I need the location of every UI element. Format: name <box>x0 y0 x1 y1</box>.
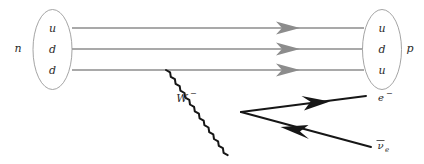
feynman-diagram-svg: u d d n u d u p W − e − ν e <box>0 0 424 164</box>
neutron-quark-2-label: d <box>49 43 56 56</box>
electron-charge-label: − <box>386 89 393 98</box>
w-boson-wavy-line <box>166 70 228 155</box>
proton-quark-1-label: u <box>378 22 385 35</box>
antineutrino-label: ν <box>377 140 383 151</box>
lepton-lines-group <box>241 96 371 147</box>
proton-quark-2-label: d <box>378 43 385 56</box>
proton-quark-3-label: u <box>378 64 385 77</box>
feynman-diagram-canvas: u d d n u d u p W − e − ν e <box>0 0 424 164</box>
neutron-blob-group: u d d n <box>14 10 72 90</box>
electron-label: e <box>378 92 384 103</box>
proton-blob-group: u d u p <box>363 10 414 90</box>
proton-label: p <box>406 42 413 55</box>
antineutrino-line <box>241 112 371 147</box>
electron-line <box>241 96 366 112</box>
arrowhead-icon-antineutrino <box>281 125 310 139</box>
w-boson-label: W <box>176 92 189 105</box>
neutron-quark-1-label: u <box>49 22 56 35</box>
w-boson-charge-label: − <box>190 89 197 98</box>
antineutrino-label-group: ν e <box>377 140 390 154</box>
w-boson-group <box>166 70 228 155</box>
antineutrino-subscript-label: e <box>385 146 389 154</box>
lepton-arrowheads-group <box>281 96 331 139</box>
w-boson-label-group: W − <box>176 89 196 105</box>
neutron-quark-3-label: d <box>49 64 56 77</box>
electron-label-group: e − <box>378 89 393 103</box>
quark-lines-group <box>72 28 364 70</box>
neutron-label: n <box>14 42 21 55</box>
